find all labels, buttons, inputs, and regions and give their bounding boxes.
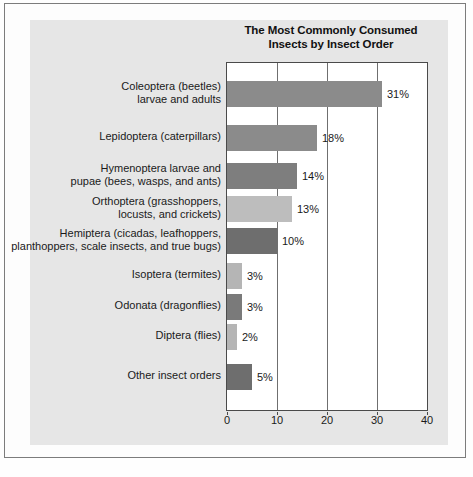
- category-label: Orthoptera (grasshoppers,locusts, and cr…: [2, 195, 226, 222]
- category-label-line: Hemiptera (cicadas, leafhoppers,: [2, 227, 221, 241]
- category-label: Other insect orders: [2, 369, 226, 383]
- bar: [227, 196, 292, 222]
- bar-value-label: 3%: [242, 263, 263, 289]
- x-tick-label: 30: [371, 414, 383, 426]
- category-label: Diptera (flies): [2, 329, 226, 343]
- bar: [227, 125, 317, 151]
- category-label-line: Odonata (dragonflies): [2, 299, 221, 313]
- bar: [227, 228, 277, 254]
- category-label-line: Diptera (flies): [2, 329, 221, 343]
- category-label-line: Hymenoptera larvae and: [2, 162, 221, 176]
- chart-title-line-2: Insects by Insect Order: [228, 37, 434, 51]
- x-tick-label: 0: [224, 414, 230, 426]
- bar: [227, 263, 242, 289]
- category-label-line: planthoppers, scale insects, and true bu…: [2, 240, 221, 254]
- category-label-line: Other insect orders: [2, 369, 221, 383]
- bar: [227, 364, 252, 390]
- plot-area: 31%18%14%13%10%3%3%2%5%: [226, 62, 428, 411]
- category-label: Isoptera (termites): [2, 268, 226, 282]
- category-axis-labels: Coleoptera (beetles)larvae and adultsLep…: [0, 62, 226, 411]
- bar-value-label: 5%: [252, 364, 273, 390]
- category-label: Hemiptera (cicadas, leafhoppers,planthop…: [2, 227, 226, 254]
- chart-title: The Most Commonly Consumed Insects by In…: [228, 23, 434, 51]
- bar: [227, 294, 242, 320]
- x-tick-label: 10: [271, 414, 283, 426]
- category-label-line: locusts, and crickets): [2, 208, 221, 222]
- bar-value-label: 10%: [277, 228, 304, 254]
- category-label: Hymenoptera larvae andpupae (bees, wasps…: [2, 162, 226, 189]
- bar-value-label: 13%: [292, 196, 319, 222]
- category-label-line: larvae and adults: [2, 93, 221, 107]
- bar-value-label: 3%: [242, 294, 263, 320]
- chart-title-line-1: The Most Commonly Consumed: [228, 23, 434, 37]
- bar-value-label: 14%: [297, 163, 324, 189]
- category-label-line: Coleoptera (beetles): [2, 80, 221, 94]
- bar-value-label: 18%: [317, 125, 344, 151]
- bar-value-label: 31%: [382, 81, 409, 107]
- category-label: Odonata (dragonflies): [2, 299, 226, 313]
- category-label: Coleoptera (beetles)larvae and adults: [2, 80, 226, 107]
- bar-value-label: 2%: [237, 324, 258, 350]
- page-root: The Most Commonly Consumed Insects by In…: [0, 0, 473, 477]
- bar-series: 31%18%14%13%10%3%3%2%5%: [227, 63, 427, 410]
- x-axis: 010203040: [226, 412, 428, 432]
- bar: [227, 163, 297, 189]
- bar: [227, 81, 382, 107]
- category-label-line: Lepidoptera (caterpillars): [2, 130, 221, 144]
- category-label-line: pupae (bees, wasps, and ants): [2, 175, 221, 189]
- x-tick-label: 20: [321, 414, 333, 426]
- category-label-line: Isoptera (termites): [2, 268, 221, 282]
- x-tick-label: 40: [421, 414, 433, 426]
- category-label-line: Orthoptera (grasshoppers,: [2, 195, 221, 209]
- category-label: Lepidoptera (caterpillars): [2, 130, 226, 144]
- bar: [227, 324, 237, 350]
